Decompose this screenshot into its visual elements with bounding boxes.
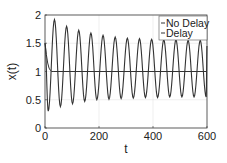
x-tick-label: 0 [42,130,48,142]
legend-label-delay: Delay [166,27,194,39]
y-axis-ticks: 00.511.52 [26,9,47,134]
x-tick-label: 600 [198,130,216,142]
y-tick-label: 2 [35,9,41,21]
chart: 00.511.52 0200400600 t x(t) No Delay Del… [0,0,227,163]
x-axis-label: t [124,142,128,156]
legend: No Delay Delay [159,16,210,40]
y-tick-label: 0 [35,122,41,134]
x-tick-label: 400 [144,130,162,142]
y-tick-label: 1 [35,66,41,78]
y-tick-label: 0.5 [26,94,41,106]
x-tick-label: 200 [90,130,108,142]
y-axis-label: x(t) [5,63,19,80]
y-tick-label: 1.5 [26,37,41,49]
